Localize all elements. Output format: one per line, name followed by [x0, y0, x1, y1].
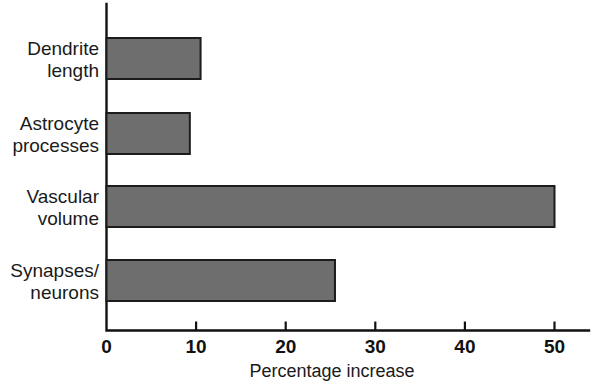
x-axis-tick-label: 40	[454, 336, 475, 357]
bar	[107, 113, 190, 154]
category-label-line1: Dendrite	[27, 38, 99, 59]
category-label: Astrocyteprocesses	[12, 113, 99, 157]
x-axis-tick-label: 30	[365, 336, 386, 357]
category-label-line2: processes	[12, 135, 99, 156]
category-label-line2: volume	[38, 208, 99, 229]
bar-chart: DendritelengthAstrocyteprocessesVascular…	[0, 0, 593, 383]
category-label-line1: Synapses/	[10, 260, 99, 281]
chart-svg: DendritelengthAstrocyteprocessesVascular…	[0, 0, 593, 383]
category-label: Vascularvolume	[26, 186, 99, 230]
x-axis-tick-label: 10	[186, 336, 207, 357]
category-label-line1: Vascular	[26, 186, 99, 207]
bar	[107, 260, 335, 301]
category-label-line2: length	[47, 60, 99, 81]
x-axis-tick-label: 50	[544, 336, 565, 357]
bar	[107, 38, 201, 79]
x-axis-title: Percentage increase	[249, 361, 414, 381]
x-axis-tick-label: 0	[101, 336, 112, 357]
bar	[107, 186, 555, 227]
x-axis-tick-label: 20	[275, 336, 296, 357]
category-label-line2: neurons	[30, 282, 99, 303]
category-label-line1: Astrocyte	[20, 113, 99, 134]
